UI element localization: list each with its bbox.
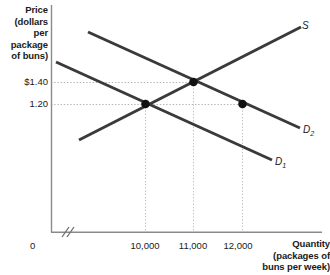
- data-point-10000-120: [141, 100, 150, 109]
- demand1-curve: [56, 62, 272, 160]
- supply-demand-chart: Price (dollars per package of buns) Quan…: [0, 0, 330, 275]
- data-point-11000-140: [189, 78, 198, 87]
- plot-area: [0, 0, 330, 275]
- data-point-12000-120: [238, 100, 247, 109]
